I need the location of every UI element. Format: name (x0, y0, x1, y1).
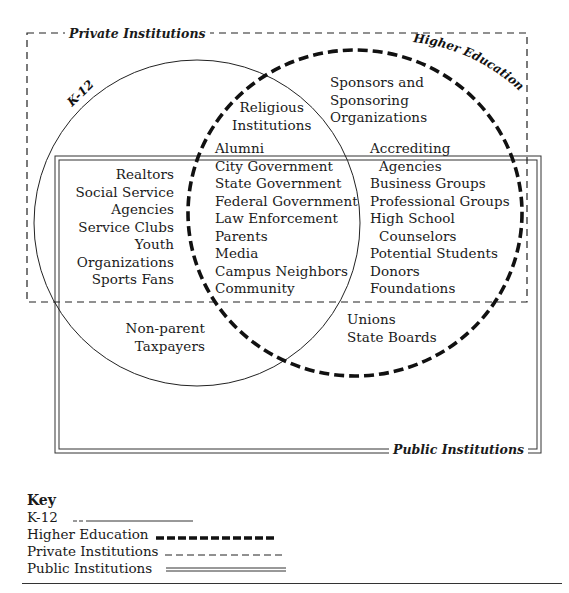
religious-group: Religious Institutions (232, 99, 312, 134)
legend-item-k12: K-12 (27, 509, 159, 526)
bottom-divider (22, 583, 562, 584)
private-institutions-label: Private Institutions (65, 26, 210, 41)
higher-education-label: Higher Education (412, 31, 527, 94)
public-higher-ed-group: Unions State Boards (347, 311, 437, 346)
legend-title: Key (27, 492, 159, 509)
legend-item-public-institutions: Public Institutions (27, 560, 159, 577)
k12-only-group: Realtors Social Service Agencies Service… (76, 166, 175, 289)
higher-ed-only-group: Accrediting Agencies Business Groups Pro… (370, 140, 510, 298)
legend-item-private-institutions: Private Institutions (27, 543, 159, 560)
public-k12-group: Non-parent Taxpayers (126, 320, 205, 355)
k12-label: K-12 (64, 77, 97, 109)
legend-item-higher-education: Higher Education (27, 526, 159, 543)
sponsors-group: Sponsors and Sponsoring Organizations (330, 74, 427, 127)
legend: Key K-12 Higher Education Private Instit… (27, 492, 159, 577)
overlap-group: Alumni City Government State Government … (215, 140, 358, 298)
public-institutions-label: Public Institutions (389, 442, 528, 457)
